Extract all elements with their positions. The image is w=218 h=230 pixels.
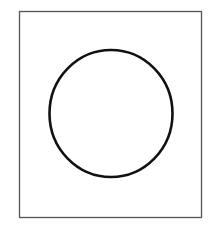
diagram-canvas	[0, 0, 218, 230]
outer-frame	[20, 12, 202, 218]
circle-shape	[50, 50, 173, 177]
